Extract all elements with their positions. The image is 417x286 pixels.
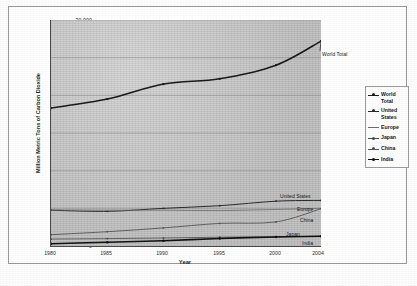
data-point	[320, 200, 321, 202]
x-tick-label: 1980	[44, 250, 56, 256]
data-point	[106, 238, 108, 240]
data-point	[51, 238, 52, 240]
data-point	[163, 237, 165, 239]
series-line	[51, 209, 321, 235]
series-europe	[51, 208, 321, 210]
series-line	[51, 208, 321, 210]
legend-swatch-icon	[368, 146, 379, 153]
series-end-label-world-total: World Total	[322, 51, 347, 57]
data-point	[106, 241, 108, 243]
legend-item-world-total[interactable]: World Total	[368, 91, 405, 104]
legend-swatch-icon	[368, 135, 379, 142]
data-point	[219, 237, 221, 239]
series-india	[51, 235, 321, 245]
x-axis-title: Year	[50, 259, 320, 265]
data-point	[320, 235, 321, 237]
data-point	[163, 207, 165, 209]
data-point	[219, 223, 221, 225]
series-end-label-europe: Europe	[297, 206, 313, 212]
data-point	[106, 210, 108, 212]
chart-frame: Million Metric Tons of Carbon Dioxide 30…	[8, 6, 407, 264]
data-point	[106, 231, 108, 233]
legend-item-china[interactable]: China	[368, 145, 405, 153]
data-point	[51, 243, 52, 245]
series-end-label-japan: Japan	[286, 231, 300, 237]
data-point	[275, 221, 277, 223]
data-point	[219, 205, 221, 207]
data-point	[275, 64, 277, 66]
legend-item-india[interactable]: India	[368, 156, 405, 164]
data-point	[162, 240, 164, 242]
legend-item-label: United States	[381, 107, 405, 120]
series-end-label-china: China	[300, 217, 313, 223]
x-tick-label: 1990	[156, 250, 168, 256]
data-point	[275, 200, 277, 202]
x-tick-label: 1985	[100, 250, 112, 256]
series-end-label-united-states: United States	[280, 193, 311, 199]
legend-item-label: Europe	[381, 124, 399, 131]
x-tick-label: 1995	[213, 250, 225, 256]
series-layer	[51, 40, 321, 245]
chart-legend: World TotalUnited StatesEuropeJapanChina…	[365, 86, 409, 168]
x-tick-label: 2004	[312, 250, 324, 256]
legend-swatch-icon	[368, 92, 379, 99]
legend-item-label: World Total	[381, 91, 405, 104]
data-point	[219, 78, 221, 80]
series-china	[51, 208, 321, 236]
legend-item-label: China	[381, 145, 395, 152]
series-line	[51, 41, 321, 108]
data-point	[275, 236, 277, 238]
gridlines	[51, 20, 321, 208]
data-point	[106, 98, 108, 100]
legend-item-united-states[interactable]: United States	[368, 107, 405, 120]
legend-swatch-icon	[368, 156, 379, 163]
data-point	[163, 227, 165, 229]
legend-swatch-icon	[368, 108, 379, 115]
series-canvas	[51, 20, 321, 246]
plot-area	[50, 20, 321, 247]
scanned-page: Million Metric Tons of Carbon Dioxide 30…	[0, 0, 417, 286]
series-end-label-india: India	[302, 240, 313, 246]
y-axis-title: Million Metric Tons of Carbon Dioxide	[35, 43, 41, 203]
data-point	[162, 83, 164, 85]
data-point	[51, 234, 52, 236]
legend-swatch-icon	[368, 124, 379, 131]
series-world-total	[51, 40, 321, 109]
legend-item-label: India	[381, 156, 393, 163]
legend-item-label: Japan	[381, 134, 396, 141]
leader-line	[320, 41, 321, 51]
legend-item-europe[interactable]: Europe	[368, 124, 405, 132]
legend-item-japan[interactable]: Japan	[368, 134, 405, 142]
x-tick-label: 2000	[269, 250, 281, 256]
